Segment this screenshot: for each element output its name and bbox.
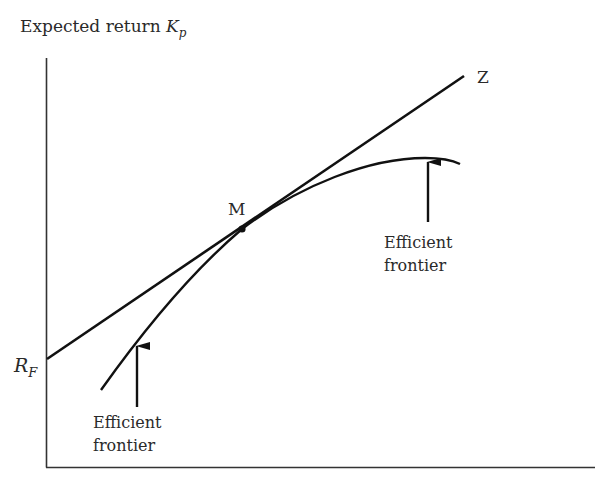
label-z: Z <box>477 67 489 87</box>
y-axis-label: Expected return Kp <box>20 16 187 40</box>
label-lower-frontier-line2: frontier <box>93 436 156 455</box>
y-axis-label-text: Expected return <box>20 16 166 36</box>
label-upper-frontier-line1: Efficient <box>384 233 453 252</box>
y-axis-label-subscript: p <box>179 26 187 40</box>
capital-market-line <box>47 76 464 359</box>
label-rf-subscript: F <box>27 365 38 380</box>
label-upper-frontier-line2: frontier <box>384 256 447 275</box>
capm-diagram: Expected return Kp M Z RF Efficient fron… <box>0 0 605 484</box>
label-m: M <box>228 199 245 219</box>
label-lower-frontier-line1: Efficient <box>93 413 162 432</box>
tangency-point-m <box>238 225 245 232</box>
label-rf-symbol: R <box>13 354 28 376</box>
diagram-canvas: Expected return Kp M Z RF Efficient fron… <box>0 0 605 484</box>
label-rf: RF <box>13 354 38 380</box>
